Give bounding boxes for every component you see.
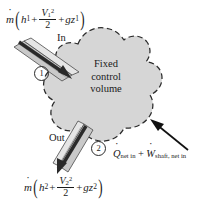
control-volume-label: Fixed control volume bbox=[71, 58, 141, 96]
inlet-mass-flow-symbol: m bbox=[6, 14, 14, 25]
control-volume-line-1: Fixed bbox=[71, 58, 141, 71]
inlet-elevation-subscript: 1 bbox=[75, 15, 79, 22]
control-volume-figure: m ( h1 + V12 2 + gz1 ) In 1 Fixed contro… bbox=[0, 0, 205, 206]
inlet-kinetic-numerator: V12 bbox=[39, 8, 56, 20]
outlet-kinetic-numerator: V22 bbox=[57, 176, 74, 188]
inlet-open-paren: ( bbox=[15, 13, 19, 26]
inlet-station-marker: 1 bbox=[34, 66, 49, 81]
outlet-plus-2: + bbox=[75, 182, 83, 193]
shaft-work-symbol: W bbox=[146, 148, 155, 159]
energy-input-label: Q net in + W shaft, net in bbox=[113, 148, 186, 159]
heat-transfer-subscript: net in bbox=[121, 152, 136, 160]
outlet-station-marker: 2 bbox=[91, 141, 106, 156]
inlet-energy-equation: m ( h1 + V12 2 + gz1 ) bbox=[6, 8, 86, 30]
outlet-kinetic-denominator: 2 bbox=[63, 188, 68, 199]
shaft-work-subscript: shaft, net in bbox=[155, 152, 186, 160]
outlet-mass-flow-symbol: m bbox=[24, 182, 32, 193]
inlet-plus-2: + bbox=[57, 14, 65, 25]
outlet-close-paren: ) bbox=[98, 181, 102, 194]
outlet-energy-equation: m ( h2 + V22 2 + gz2 ) bbox=[24, 176, 104, 198]
control-volume-line-2: control bbox=[71, 71, 141, 84]
inlet-kinetic-denominator: 2 bbox=[45, 20, 50, 31]
outlet-elevation-subscript: 2 bbox=[93, 183, 97, 190]
outlet-direction-label: Out bbox=[49, 133, 65, 144]
outlet-velocity-exponent: 2 bbox=[69, 175, 72, 182]
control-volume-line-3: volume bbox=[71, 83, 141, 96]
energy-input-plus: + bbox=[135, 148, 146, 159]
inlet-direction-label: In bbox=[57, 33, 66, 44]
inlet-kinetic-energy-fraction: V12 2 bbox=[39, 8, 56, 30]
outlet-plus-1: + bbox=[48, 182, 56, 193]
energy-input-arrow bbox=[150, 119, 188, 150]
inlet-plus-1: + bbox=[30, 14, 38, 25]
outlet-kinetic-energy-fraction: V22 2 bbox=[57, 176, 74, 198]
inlet-close-paren: ) bbox=[80, 13, 84, 26]
heat-transfer-symbol: Q bbox=[113, 148, 121, 159]
inlet-velocity-exponent: 2 bbox=[51, 7, 54, 14]
outlet-open-paren: ( bbox=[33, 181, 37, 194]
